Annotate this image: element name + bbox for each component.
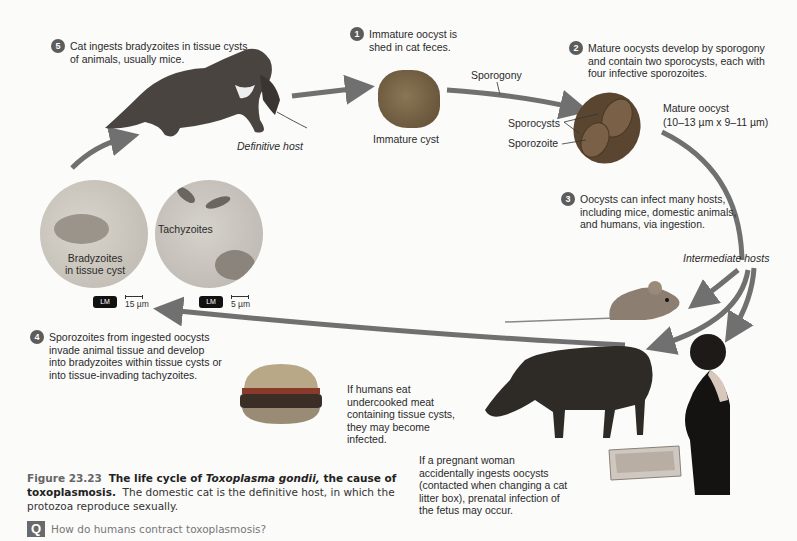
mature-oocyst-size: (10–13 µm x 9–11 µm) [663,116,768,128]
mature-oocyst-label: Mature oocyst [663,102,729,114]
bradyzoites-label: Bradyzoites in tissue cyst [65,252,125,276]
pregnant-note: If a pregnant woman accidentally ingests… [419,454,569,517]
step-3: 3 Oocysts can infect many hosts, includi… [580,193,740,231]
step-1-text: Immature oocyst is shed in cat feces. [369,28,457,53]
definitive-host-label: Definitive host [237,140,303,152]
step-3-number: 3 [561,192,575,206]
hamburger-image [236,360,326,428]
question-icon: Q [27,521,45,537]
sporocysts-label: Sporocysts [508,117,560,129]
step-2: 2 Mature oocysts develop by sporogony an… [588,42,773,80]
bradyzoites-micrograph: Bradyzoites in tissue cyst [40,180,148,288]
pregnant-woman-image [670,330,780,500]
lm-badge-left: LM [93,296,117,308]
sporogony-label: Sporogony [471,69,522,81]
immature-cyst-label: Immature cyst [373,133,439,145]
scale-bar-right: 5 µm [231,295,250,309]
step-4: 4 Sporozoites from ingested oocysts inva… [49,331,224,381]
meat-note: If humans eat undercooked meat containin… [347,383,472,446]
immature-cyst-image [378,70,440,128]
figure-caption: Figure 23.23 The life cycle of Toxoplasm… [27,471,427,513]
cow-image [465,340,665,445]
step-2-number: 2 [569,41,583,55]
sporozoite-label: Sporozoite [508,137,558,149]
intermediate-hosts-label: Intermediate hosts [683,252,769,264]
figure-title-species: Toxoplasma gondii, [206,472,320,484]
mouse-image [505,278,685,328]
litter-box-image [605,440,685,485]
step-4-number: 4 [30,330,44,344]
step-1-number: 1 [350,27,364,41]
step-1: 1 Immature oocyst is shed in cat feces. [369,28,479,53]
figure-number: Figure 23.23 [27,472,102,484]
tachyzoites-label: Tachyzoites [158,223,213,235]
scale-bar-left: 15 µm [125,295,149,309]
leader-lines [560,110,610,150]
step-3-text: Oocysts can infect many hosts, including… [580,193,736,230]
lm-badge-right: LM [199,296,223,308]
tachyzoites-micrograph: Tachyzoites [155,180,263,288]
step-2-text: Mature oocysts develop by sporogony and … [588,42,765,79]
step-5-number: 5 [51,39,65,53]
question-row: QHow do humans contract toxoplasmosis? [27,519,266,537]
question-text: How do humans contract toxoplasmosis? [51,523,266,535]
figure-title-1: The life cycle of [109,472,206,484]
step-4-text: Sporozoites from ingested oocysts invade… [49,331,222,381]
cat-with-mouse-image [95,40,310,150]
